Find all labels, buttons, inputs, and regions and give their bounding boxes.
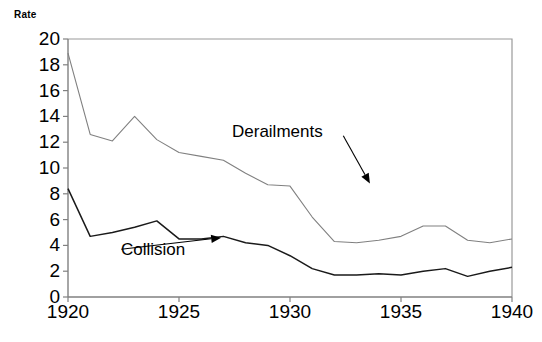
- line-chart: Rate 02468101214161820 19201925193019351…: [0, 0, 542, 342]
- y-tick-label: 16: [22, 81, 60, 100]
- series-label-collision: Collision: [121, 240, 185, 260]
- y-tick-label: 2: [22, 261, 60, 280]
- series-label-derailments: Derailments: [232, 122, 323, 142]
- annotation-arrow-head: [361, 173, 370, 184]
- x-tick-label: 1940: [472, 302, 542, 321]
- series-line-derailments: [68, 53, 512, 243]
- y-axis-ticks: [63, 39, 68, 297]
- y-tick-label: 14: [22, 106, 60, 125]
- x-tick-label: 1925: [139, 302, 219, 321]
- y-axis-title: Rate: [14, 9, 36, 20]
- annotation-leader-line: [343, 136, 365, 175]
- plot-area: [0, 0, 542, 342]
- series-line-collision: [68, 189, 512, 277]
- x-tick-label: 1935: [361, 302, 441, 321]
- y-tick-label: 4: [22, 235, 60, 254]
- x-tick-label: 1920: [28, 302, 108, 321]
- annotation-arrows: [121, 136, 370, 250]
- x-tick-label: 1930: [250, 302, 330, 321]
- annotation-arrow-head: [211, 235, 221, 243]
- y-tick-label: 20: [22, 29, 60, 48]
- y-tick-label: 18: [22, 55, 60, 74]
- y-tick-label: 12: [22, 132, 60, 151]
- y-tick-label: 10: [22, 158, 60, 177]
- y-tick-label: 6: [22, 210, 60, 229]
- y-tick-label: 8: [22, 184, 60, 203]
